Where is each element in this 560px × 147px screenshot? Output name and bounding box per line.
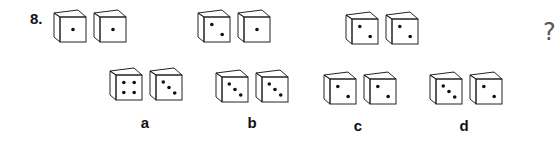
die-icon [428,70,464,106]
die-icon [384,10,420,46]
die-icon [148,66,184,102]
option-d-label[interactable]: d [454,117,474,134]
option-a-dice[interactable] [108,66,184,102]
option-c-label[interactable]: c [348,117,368,134]
sequence-pair-1 [52,8,128,44]
die-icon [362,70,398,106]
die-icon [92,8,128,44]
die-icon [108,66,144,102]
die-icon [196,8,232,44]
option-d-dice[interactable] [428,70,504,106]
option-c-dice[interactable] [322,70,398,106]
die-icon [52,8,88,44]
die-icon [344,10,380,46]
die-icon [254,68,290,104]
die-icon [322,70,358,106]
option-b-dice[interactable] [214,68,290,104]
option-a-label[interactable]: a [135,114,155,131]
question-number: 8. [30,10,43,27]
die-icon [214,68,250,104]
option-b-label[interactable]: b [242,114,262,131]
sequence-pair-3 [344,10,420,46]
missing-answer-marker: ? [543,18,556,46]
die-icon [236,8,272,44]
sequence-pair-2 [196,8,272,44]
die-icon [468,70,504,106]
